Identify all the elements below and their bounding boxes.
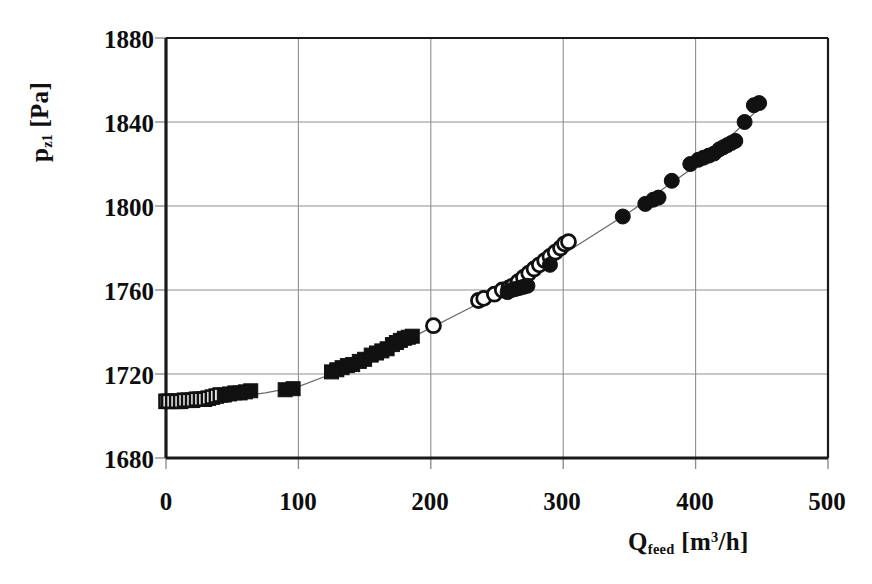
data-point-filled-circle	[737, 115, 752, 130]
axis-ticks-group	[155, 38, 828, 469]
data-point-filled-circle	[752, 96, 767, 111]
data-point-open-circle	[562, 235, 576, 249]
data-point-filled-circle	[728, 133, 743, 148]
data-point-filled-square	[405, 329, 419, 343]
series-open-squares	[160, 389, 227, 408]
gridlines-group	[166, 38, 828, 458]
axis-lines-group	[166, 38, 828, 458]
data-point-filled-circle	[520, 278, 535, 293]
trend-curve-group	[166, 105, 762, 401]
data-point-filled-circle	[615, 209, 630, 224]
data-points-group	[160, 96, 767, 408]
chart-container: pz1 [Pa] Qfeed [m3/h] 1880 1840 1800 176…	[0, 0, 872, 584]
data-point-filled-square	[286, 382, 300, 396]
data-point-open-circle	[426, 319, 440, 333]
data-point-filled-circle	[651, 190, 666, 205]
data-point-filled-circle	[664, 173, 679, 188]
data-point-filled-square	[244, 384, 258, 398]
plot-area	[0, 0, 872, 584]
trend-curve-path	[166, 105, 762, 401]
data-point-filled-circle	[542, 257, 557, 272]
series-filled-squares	[217, 329, 419, 402]
